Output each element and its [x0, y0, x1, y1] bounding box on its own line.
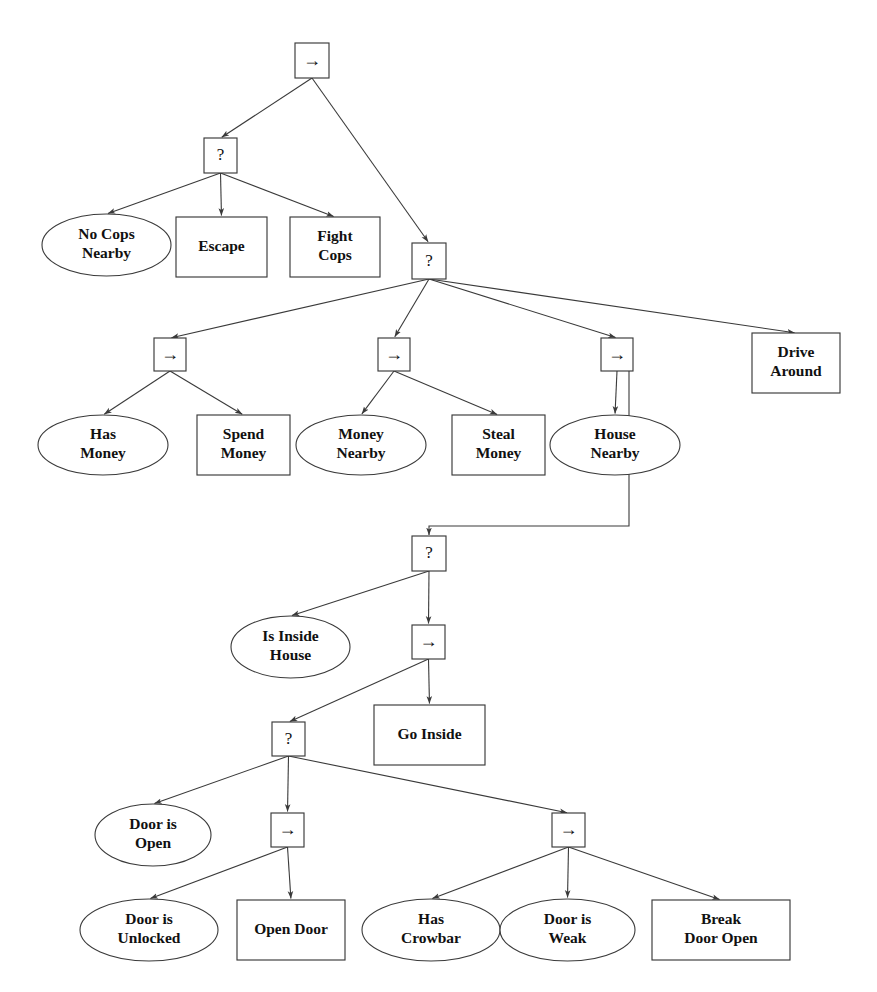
node-label: Weak [549, 929, 587, 946]
edge-n23-to-n27 [568, 847, 569, 898]
node-label: Unlocked [118, 929, 181, 946]
behavior-tree-canvas: →?No CopsNearbyEscapeFightCops?→→→DriveA… [0, 0, 877, 992]
node-action-n14[interactable]: StealMoney [452, 415, 545, 475]
edge-n6-to-n10 [429, 279, 795, 333]
node-sequence-n1[interactable]: → [295, 43, 329, 78]
edge-n2-to-n4 [221, 173, 222, 216]
node-label: Money [338, 425, 384, 442]
edge-line [221, 173, 222, 216]
node-condition-n21[interactable]: Door isOpen [95, 804, 211, 866]
node-label: House [594, 425, 635, 442]
edge-line [432, 847, 568, 898]
edge-line [222, 78, 312, 137]
edge-n2-to-n3 [108, 173, 221, 213]
edge-n22-to-n25 [288, 847, 291, 899]
edge-line [394, 371, 497, 414]
node-label: Open [135, 834, 172, 851]
node-label: Door is [544, 910, 592, 927]
node-sequence-n8[interactable]: → [378, 338, 410, 371]
node-condition-n26[interactable]: HasCrowbar [362, 899, 500, 961]
node-fallback-n19[interactable]: ? [272, 722, 305, 756]
node-condition-n27[interactable]: Door isWeak [500, 899, 635, 961]
node-label: Money [476, 444, 522, 461]
node-condition-n17[interactable]: Is InsideHouse [231, 616, 350, 678]
node-sequence-n22[interactable]: → [271, 813, 304, 847]
node-action-n25[interactable]: Open Door [237, 900, 345, 960]
edge-line [171, 279, 429, 338]
edge-line [104, 371, 170, 414]
node-label: Nearby [82, 244, 131, 261]
node-label: Around [770, 362, 822, 379]
node-fallback-n6[interactable]: ? [412, 243, 446, 279]
node-label: Money [80, 444, 126, 461]
edges-layer [104, 78, 794, 900]
node-condition-n13[interactable]: MoneyNearby [296, 415, 426, 475]
edge-n9-to-n15 [615, 371, 617, 414]
edge-line [288, 847, 291, 899]
node-label: → [385, 344, 403, 364]
node-action-n5[interactable]: FightCops [290, 217, 380, 277]
node-action-n4[interactable]: Escape [176, 217, 267, 277]
node-label: → [560, 819, 578, 839]
edge-n16-to-n17 [292, 571, 429, 616]
node-fallback-n2[interactable]: ? [204, 138, 237, 173]
edge-n8-to-n14 [394, 371, 497, 414]
node-label: Money [221, 444, 267, 461]
node-sequence-n18[interactable]: → [412, 625, 445, 659]
edge-n6-to-n9 [429, 279, 616, 338]
node-sequence-n7[interactable]: → [154, 338, 186, 371]
edge-line [154, 756, 288, 803]
edge-line [568, 847, 569, 898]
node-label: → [279, 819, 297, 839]
node-label: Door is [125, 910, 173, 927]
node-action-n10[interactable]: DriveAround [752, 333, 840, 393]
node-label: Drive [777, 343, 814, 360]
nodes-layer: →?No CopsNearbyEscapeFightCops?→→→DriveA… [38, 43, 840, 961]
edge-n23-to-n26 [432, 847, 568, 898]
node-label: ? [425, 543, 433, 562]
edge-line [615, 371, 617, 414]
node-condition-n15[interactable]: HouseNearby [550, 415, 680, 475]
node-label: Break [701, 910, 742, 927]
node-label: ? [217, 145, 225, 164]
node-action-n12[interactable]: SpendMoney [197, 415, 290, 475]
node-sequence-n23[interactable]: → [552, 813, 585, 847]
edge-n8-to-n13 [362, 371, 394, 414]
node-label: Door is [129, 815, 177, 832]
node-label: → [161, 344, 179, 364]
edge-line [429, 279, 795, 333]
edge-line [221, 173, 334, 216]
edge-n2-to-n5 [221, 173, 334, 216]
edge-line [429, 279, 616, 338]
node-fallback-n16[interactable]: ? [412, 536, 446, 571]
edge-n6-to-n8 [395, 279, 429, 337]
behavior-tree-diagram: →?No CopsNearbyEscapeFightCops?→→→DriveA… [0, 0, 877, 992]
edge-line [395, 279, 429, 337]
edge-line [569, 847, 720, 900]
node-action-n20[interactable]: Go Inside [374, 705, 485, 765]
edge-line [292, 571, 429, 616]
edge-line [170, 371, 242, 414]
edge-n6-to-n7 [171, 279, 429, 338]
node-sequence-n9[interactable]: → [601, 338, 633, 371]
node-condition-n11[interactable]: HasMoney [38, 415, 168, 475]
node-label: Open Door [254, 920, 328, 937]
node-label: Spend [223, 425, 265, 442]
node-condition-n24[interactable]: Door isUnlocked [80, 899, 218, 961]
node-label: → [303, 50, 321, 70]
node-label: House [270, 646, 311, 663]
edge-n23-to-n28 [569, 847, 720, 900]
node-label: Has [90, 425, 116, 442]
node-label: → [608, 344, 626, 364]
node-label: Nearby [590, 444, 639, 461]
node-action-n28[interactable]: BreakDoor Open [652, 900, 790, 960]
edge-n7-to-n12 [170, 371, 242, 414]
node-label: Door Open [684, 929, 758, 946]
edge-line [362, 371, 394, 414]
node-label: Nearby [336, 444, 385, 461]
node-condition-n3[interactable]: No CopsNearby [42, 214, 171, 276]
edge-line [288, 756, 289, 812]
edge-n19-to-n21 [154, 756, 288, 803]
node-label: Go Inside [397, 725, 461, 742]
node-label: No Cops [78, 225, 134, 242]
